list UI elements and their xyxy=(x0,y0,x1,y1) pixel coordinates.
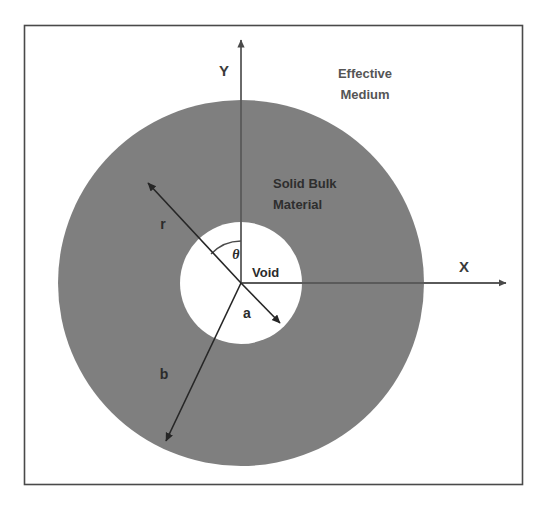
effective-medium-label-line2: Medium xyxy=(340,87,389,102)
r-dimension-label: r xyxy=(160,216,166,232)
void-label: Void xyxy=(252,265,279,280)
solid-bulk-material-label-line2: Material xyxy=(273,197,322,212)
diagram-root: X Y Effective Medium Solid Bulk Material… xyxy=(0,0,543,507)
theta-angle-label: θ xyxy=(232,247,240,262)
effective-medium-label-line1: Effective xyxy=(338,66,392,81)
solid-bulk-material-label-line1: Solid Bulk xyxy=(273,176,337,191)
b-dimension-label: b xyxy=(160,366,169,382)
a-dimension-label: a xyxy=(243,305,251,321)
y-axis-label: Y xyxy=(219,62,229,79)
void-in-bulk-material-diagram: X Y Effective Medium Solid Bulk Material… xyxy=(0,0,543,507)
x-axis-label: X xyxy=(459,258,469,275)
